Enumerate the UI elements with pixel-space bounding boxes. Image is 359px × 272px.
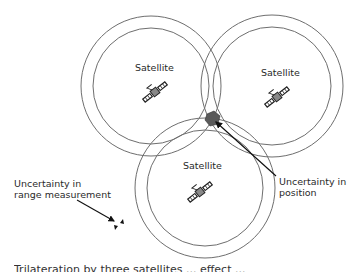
satellite-icon [184,177,213,203]
range-circles [81,15,343,258]
satellite-2-label: Satellite [261,67,300,78]
range-uncertainty-line1: Uncertainty in [14,178,111,189]
position-uncertainty-line2: position [279,187,346,198]
range-uncertainty-annotation: Uncertainty in range measurement [14,178,111,200]
satellite-1-label: Satellite [135,62,174,73]
trilateration-diagram [0,0,359,272]
satellite-1-inner-range [93,28,209,144]
satellite-icon [139,77,168,103]
double-arrow-icon [114,219,124,230]
range-pointer-arrow [77,200,114,221]
satellite-3-label: Satellite [183,160,222,171]
figure-caption: Trilateration by three satellites ... ef… [14,263,245,272]
range-uncertainty-line2: range measurement [14,189,111,200]
satellite-2-inner-range [213,27,331,145]
position-uncertainty-line1: Uncertainty in [279,176,346,187]
position-pointer-arrow [216,122,276,176]
satellite-icon [261,82,290,108]
range-uncertainty-arrows [77,200,124,230]
satellite-2-outer-range [201,15,343,157]
satellite-1-outer-range [81,16,221,156]
position-uncertainty-annotation: Uncertainty in position [279,176,346,198]
